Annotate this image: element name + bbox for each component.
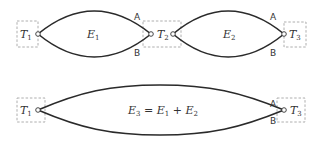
node-t1 [36, 32, 41, 37]
terminal-t2-label: T2 [157, 28, 169, 42]
edge-e2-label: E2 [222, 28, 236, 42]
edge-e1-label: E1 [86, 28, 100, 42]
edge-e3-equation: E3 = E1 + E2 [127, 104, 198, 118]
top-row: T1 T2 T3 E1 E2 A B A B [17, 11, 306, 58]
e2-port-b-label: B [270, 48, 276, 58]
node-t3 [282, 32, 287, 37]
terminal-t1-label: T1 [20, 28, 32, 42]
terminal-t3-label: T3 [289, 28, 301, 42]
terminal-t1-label-merged: T1 [20, 104, 32, 118]
e1-port-b-label: B [134, 48, 140, 58]
bottom-row: T1 T3 E3 = E1 + E2 A B [17, 85, 305, 135]
node-t3-merged [282, 108, 287, 113]
terminal-t3-label-merged: T3 [290, 104, 302, 118]
edge-merge-diagram: T1 T2 T3 E1 E2 A B A B T1 T3 E3 = E1 + E… [0, 0, 324, 144]
node-t2-left [149, 32, 154, 37]
e3-port-b-label: B [270, 116, 276, 126]
node-t2-right [171, 32, 176, 37]
e1-port-a-label: A [134, 12, 141, 22]
e3-port-a-label: A [270, 99, 277, 109]
node-t1-merged [36, 108, 41, 113]
e2-port-a-label: A [270, 12, 277, 22]
